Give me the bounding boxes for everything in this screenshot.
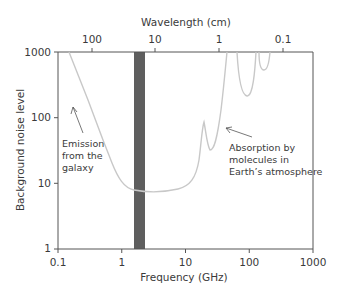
top-tick-labels: 100 10 1 0.1: [82, 33, 291, 45]
top-tick-label: 100: [82, 33, 102, 45]
galaxy-annotation-text: Emission from the galaxy: [62, 138, 104, 173]
svg-text:molecules in: molecules in: [229, 154, 289, 165]
x-tick-label: 100: [239, 256, 259, 268]
y-tick-label: 1000: [24, 46, 51, 58]
x-tick-label: 10: [179, 256, 192, 268]
top-tick-label: 1: [216, 33, 223, 45]
frequency-band-highlight: [134, 52, 145, 249]
x-tick-label: 0.1: [50, 256, 67, 268]
absorption-annotation-text: Absorption by molecules in Earth’s atmos…: [229, 142, 323, 177]
x-tick-label: 1: [118, 256, 125, 268]
svg-text:Absorption by: Absorption by: [229, 142, 295, 153]
y-tick-label: 10: [38, 177, 51, 189]
absorption-annotation-arrow: [226, 127, 252, 137]
top-tick-label: 10: [148, 33, 161, 45]
svg-text:from the: from the: [62, 150, 103, 161]
svg-text:galaxy: galaxy: [62, 162, 94, 173]
x-axis-title: Frequency (GHz): [140, 271, 227, 283]
noise-chart: Wavelength (cm) 100 10 1 0.1 1 1: [0, 0, 338, 298]
x-tick-labels: 0.1 1 10 100 1000: [50, 256, 327, 268]
y-tick-labels: 1 10 100 1000: [24, 46, 51, 254]
y-axis-title: Background noise level: [14, 89, 26, 211]
svg-text:Earth’s atmosphere: Earth’s atmosphere: [229, 166, 323, 177]
x-tick-label: 1000: [300, 256, 327, 268]
top-tick-label: 0.1: [275, 33, 292, 45]
y-tick-label: 1: [44, 242, 51, 254]
galaxy-annotation-arrow: [71, 107, 83, 133]
svg-text:Emission: Emission: [62, 138, 104, 149]
top-axis-title: Wavelength (cm): [141, 16, 231, 28]
y-tick-label: 100: [31, 111, 51, 123]
